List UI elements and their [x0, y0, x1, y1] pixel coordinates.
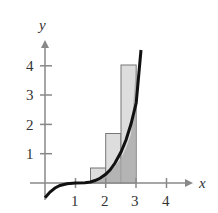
riemann-sum-chart: x y 1 2 3 4 1 2 3 4 [0, 0, 218, 213]
x-tick-2: 2 [101, 193, 109, 209]
y-tick-4: 4 [26, 58, 34, 74]
y-tick-2: 2 [26, 117, 34, 133]
x-tick-1: 1 [71, 193, 79, 209]
y-axis-label: y [37, 17, 46, 33]
y-axis-arrow-icon [41, 40, 49, 48]
x-tick-4: 4 [162, 193, 170, 209]
y-tick-3: 3 [26, 87, 34, 103]
x-tick-3: 3 [131, 193, 139, 209]
x-axis-arrow-icon [185, 179, 193, 187]
y-tick-1: 1 [26, 146, 34, 162]
x-axis-label: x [198, 175, 206, 191]
